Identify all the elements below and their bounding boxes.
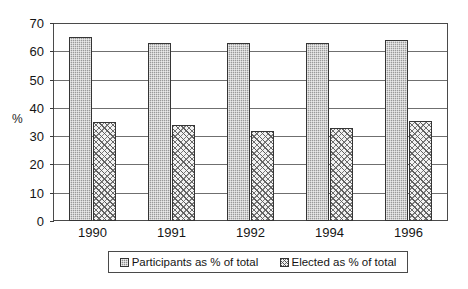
y-tick-label: 70	[14, 17, 44, 30]
bar	[330, 128, 353, 221]
bar	[93, 122, 116, 221]
legend-label: Elected as % of total	[292, 256, 397, 268]
y-tick-label: 60	[14, 45, 44, 58]
bar	[227, 43, 250, 221]
y-tick-label: 20	[14, 158, 44, 171]
x-tick-label: 1991	[132, 226, 211, 239]
y-tick-label: 10	[14, 187, 44, 200]
bar	[409, 121, 432, 221]
series-0-swatch-icon	[120, 258, 129, 267]
bar	[251, 131, 274, 222]
legend-item-participants: Participants as % of total	[120, 256, 259, 268]
bars-layer	[53, 23, 448, 221]
x-tick-label: 1994	[290, 226, 369, 239]
x-tick-label: 1996	[369, 226, 448, 239]
bar-group	[148, 23, 195, 221]
y-axis-tick	[50, 221, 54, 222]
bar	[69, 37, 92, 221]
bar-group	[69, 23, 116, 221]
bar-group	[306, 23, 353, 221]
y-tick-label: 0	[14, 215, 44, 228]
legend-label: Participants as % of total	[132, 256, 259, 268]
bar	[306, 43, 329, 221]
y-tick-label: 30	[14, 130, 44, 143]
bar	[148, 43, 171, 221]
x-tick-label: 1992	[211, 226, 290, 239]
bar-group	[227, 23, 274, 221]
chart-legend: Participants as % of total Elected as % …	[108, 251, 408, 273]
bar	[385, 40, 408, 221]
bar	[172, 125, 195, 221]
x-tick-label: 1990	[53, 226, 132, 239]
bar-chart: % 70 60 50 40 30 20 10 0 1990 1991 1992 …	[0, 0, 468, 289]
bar-group	[385, 23, 432, 221]
series-1-swatch-icon	[280, 258, 289, 267]
y-tick-label: 50	[14, 74, 44, 87]
y-tick-label: 40	[14, 102, 44, 115]
legend-item-elected: Elected as % of total	[280, 256, 397, 268]
